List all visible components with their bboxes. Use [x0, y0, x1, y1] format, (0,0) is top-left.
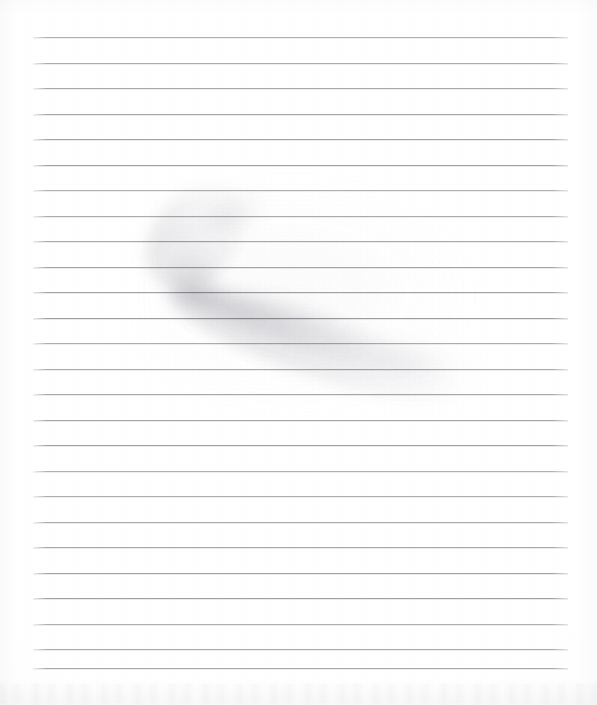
rule-line	[33, 522, 568, 523]
rule-line	[33, 445, 568, 446]
rule-line	[33, 369, 568, 370]
rule-line	[33, 292, 568, 293]
rule-line	[33, 139, 568, 140]
rule-line	[33, 241, 568, 242]
rule-line	[33, 37, 568, 38]
rule-line	[33, 598, 568, 599]
rule-line	[33, 318, 568, 319]
rule-line	[33, 624, 568, 625]
rule-line	[33, 114, 568, 115]
rule-line	[33, 668, 568, 669]
rule-line	[33, 63, 568, 64]
rule-line	[33, 190, 568, 191]
rule-line	[33, 267, 568, 268]
rule-line	[33, 216, 568, 217]
rule-line	[33, 573, 568, 574]
rule-line	[33, 547, 568, 548]
ruled-lines-layer	[0, 0, 597, 705]
rule-line	[33, 165, 568, 166]
rule-line	[33, 496, 568, 497]
rule-line	[33, 420, 568, 421]
rule-line	[33, 471, 568, 472]
rule-line	[33, 343, 568, 344]
rule-line	[33, 649, 568, 650]
rule-line	[33, 394, 568, 395]
rule-line	[33, 88, 568, 89]
scanned-page	[0, 0, 597, 705]
